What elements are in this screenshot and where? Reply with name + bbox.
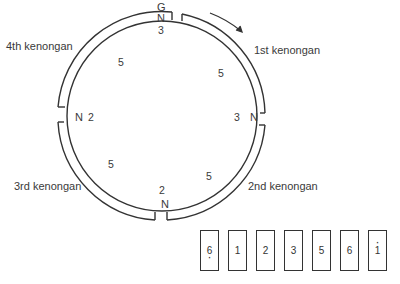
arc-3rd-kenongan <box>58 122 155 220</box>
arc-4th-kenongan <box>58 11 172 107</box>
pitch-key-cell: 1 <box>368 230 387 271</box>
nong-marker-right: N <box>250 112 258 123</box>
cycle-number-upper-left: 5 <box>118 57 124 68</box>
arc-2nd-kenongan <box>167 125 265 220</box>
pitch-label: 1 <box>235 245 241 256</box>
pitch-label: 6 <box>207 245 213 256</box>
nong-marker-left: N <box>75 112 83 123</box>
pitch-label: 5 <box>319 245 325 256</box>
pitch-key-cell: 2 <box>256 230 275 271</box>
pitch-key-cell: 1 <box>228 230 247 271</box>
pitch-label: 3 <box>291 245 297 256</box>
cycle-number-left: 2 <box>88 112 94 123</box>
pitch-key-cell: 5 <box>312 230 331 271</box>
arc-1st-kenongan <box>182 14 265 113</box>
label-2nd-kenongan: 2nd kenongan <box>248 180 318 192</box>
nong-marker-bottom: N <box>161 199 169 210</box>
pitch-label: 2 <box>263 245 269 256</box>
nong-marker-top: N <box>157 13 165 24</box>
direction-arrow-icon <box>210 13 242 32</box>
label-1st-kenongan: 1st kenongan <box>254 44 320 56</box>
pitch-label: 1 <box>375 245 381 256</box>
label-4th-kenongan: 4th kenongan <box>6 40 73 52</box>
pitch-key-cell: 6 <box>200 230 219 271</box>
inner-cycle-circle <box>67 21 257 211</box>
cycle-number-lower-left: 5 <box>108 159 114 170</box>
cycle-number-lower-right: 5 <box>206 171 212 182</box>
cycle-number-top: 3 <box>158 25 164 36</box>
pitch-key-cell: 6 <box>340 230 359 271</box>
pitch-label: 6 <box>347 245 353 256</box>
label-3rd-kenongan: 3rd kenongan <box>14 180 81 192</box>
cycle-number-bottom: 2 <box>159 185 165 196</box>
pitch-key-cell: 3 <box>284 230 303 271</box>
cycle-number-upper-right: 5 <box>218 68 224 79</box>
cycle-number-right: 3 <box>234 112 240 123</box>
